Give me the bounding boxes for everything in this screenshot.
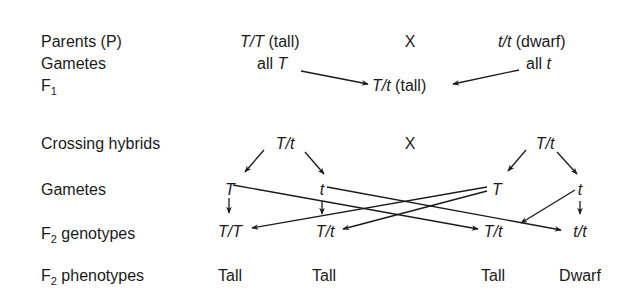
f2-genotype-tt: t/t [573, 224, 586, 240]
row-label-crossing-hybrids: Crossing hybrids [41, 136, 160, 152]
gamete-t-right: t [578, 182, 582, 198]
row-label-gametes-2: Gametes [41, 182, 106, 198]
arrow-right-t-to-Tt [521, 190, 575, 223]
hybrid-right: T/t [536, 136, 555, 152]
parent-dwarf: t/t (dwarf) [498, 34, 566, 50]
arrow-gamete-T-to-f1 [301, 71, 368, 84]
gamete-t-left: t [320, 182, 324, 198]
f2-phenotype-1: Tall [218, 268, 242, 284]
f2-genotype-Tt-1: T/t [316, 224, 335, 240]
gamete-all-T: all T [257, 56, 287, 72]
arrow-right-hybrid-to-t [557, 152, 577, 174]
f2-genotype-Tt-2: T/t [484, 224, 503, 240]
f1-genotype: T/t (tall) [372, 78, 426, 94]
f2-phenotype-3: Tall [481, 268, 505, 284]
gamete-T-left: T [225, 182, 235, 198]
cross-symbol-hybrids: X [405, 136, 416, 152]
gamete-all-t: all t [526, 56, 551, 72]
arrow-right-hybrid-to-T [508, 150, 526, 171]
f2-genotype-TT: T/T [218, 224, 242, 240]
cross-symbol-p: X [405, 34, 416, 50]
hybrid-left: T/t [276, 136, 295, 152]
f2-phenotype-4: Dwarf [559, 268, 601, 284]
arrow-right-T-to-Tt [343, 191, 487, 229]
row-label-f1: F1 [41, 78, 57, 95]
arrow-left-hybrid-to-t [305, 152, 324, 174]
f2-phenotype-2: Tall [312, 268, 336, 284]
arrow-gamete-t-to-f1 [453, 70, 519, 84]
row-label-parents: Parents (P) [41, 34, 122, 50]
row-label-f2-genotypes: F2 genotypes [41, 226, 135, 243]
row-label-f2-phenotypes: F2 phenotypes [41, 268, 144, 285]
parent-tall: T/T (tall) [240, 34, 300, 50]
arrow-left-hybrid-to-T [245, 150, 264, 172]
gamete-T-right: T [492, 182, 502, 198]
row-label-gametes: Gametes [41, 56, 106, 72]
